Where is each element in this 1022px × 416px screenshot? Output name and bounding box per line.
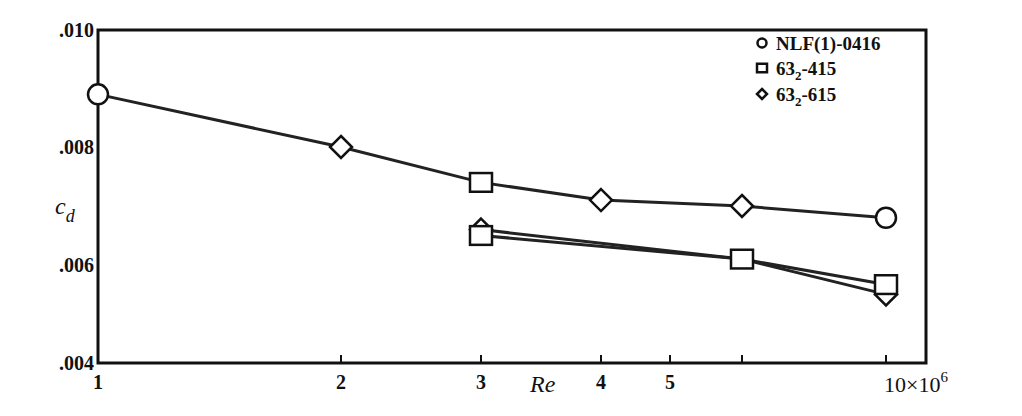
legend-label: 632-415 [776, 58, 836, 83]
x-axis-ticks: 12345 [93, 355, 886, 393]
x-tick-label: 1 [93, 371, 103, 393]
diamond-marker-icon [590, 189, 612, 211]
x-tick-label: 3 [476, 371, 486, 393]
square-marker-icon [470, 173, 492, 192]
circle-marker-icon [88, 84, 108, 104]
y-tick-label: .008 [59, 136, 94, 158]
series-line [481, 230, 886, 295]
y-axis-title: cd [55, 193, 76, 226]
square-marker-icon [875, 275, 897, 294]
legend-label: NLF(1)-0416 [776, 33, 880, 55]
series-line [481, 236, 886, 285]
y-tick-label: .010 [59, 19, 94, 41]
circle-marker-icon [876, 208, 896, 228]
plot-frame [98, 30, 926, 363]
square-marker-icon [757, 64, 767, 73]
x-tick-label: 2 [336, 371, 346, 393]
data-series [98, 94, 886, 294]
circle-marker-icon [758, 39, 767, 48]
square-marker-icon [470, 226, 492, 245]
series-line [98, 94, 886, 217]
x-axis-title: Re [529, 371, 556, 397]
x-tick-label: 5 [665, 371, 675, 393]
drag-coefficient-chart: 12345 .010.008.006.004 NLF(1)-0416632-41… [0, 0, 1022, 416]
x-tick-label: 4 [596, 371, 606, 393]
diamond-marker-icon [330, 136, 352, 158]
y-tick-label: .006 [59, 254, 94, 276]
y-tick-label: .004 [59, 352, 94, 374]
diamond-marker-icon [731, 195, 753, 217]
x-axis-multiplier: 10×106 [884, 369, 948, 397]
diamond-marker-icon [757, 89, 767, 99]
legend: NLF(1)-0416632-415632-615 [757, 33, 880, 109]
legend-label: 632-615 [776, 84, 836, 109]
plot-border [98, 30, 926, 363]
square-marker-icon [731, 250, 753, 269]
